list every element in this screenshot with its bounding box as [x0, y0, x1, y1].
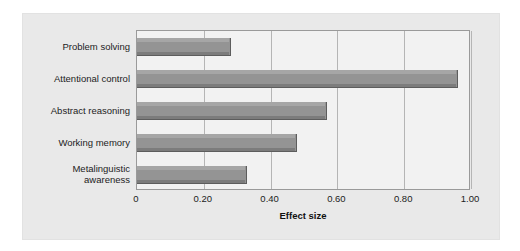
category-label: Attentional control — [24, 73, 136, 84]
bar — [137, 134, 297, 152]
gridline — [471, 31, 472, 189]
category-label-line: Problem solving — [24, 41, 130, 52]
bar-row — [137, 31, 469, 63]
category-axis-labels: Problem solvingAttentional controlAbstra… — [18, 30, 136, 190]
bar-row — [137, 127, 469, 159]
category-label: Abstract reasoning — [24, 105, 136, 116]
x-tick-label: 1.00 — [461, 193, 480, 204]
x-tick-label: 0.80 — [394, 193, 413, 204]
bar-row — [137, 63, 469, 95]
x-axis-tick-labels: 00.200.400.600.801.00 — [136, 193, 470, 207]
x-tick-label: 0.40 — [260, 193, 279, 204]
category-label-line: Attentional control — [24, 73, 130, 84]
category-label: Problem solving — [24, 41, 136, 52]
category-label-line: awareness — [24, 174, 130, 185]
x-axis-title: Effect size — [136, 210, 470, 221]
figure-container: Problem solvingAttentional controlAbstra… — [0, 0, 520, 251]
category-label: Metalinguisticawareness — [24, 163, 136, 185]
category-label-line: Abstract reasoning — [24, 105, 130, 116]
x-tick-label: 0.60 — [327, 193, 346, 204]
bar — [137, 166, 247, 184]
bar-row — [137, 159, 469, 191]
plot-area — [136, 30, 470, 190]
bar — [137, 70, 458, 88]
category-label-line: Metalinguistic — [24, 163, 130, 174]
category-label: Working memory — [24, 137, 136, 148]
bar-row — [137, 95, 469, 127]
x-tick-label: 0.20 — [194, 193, 213, 204]
bar — [137, 102, 327, 120]
bar — [137, 38, 231, 56]
category-label-line: Working memory — [24, 137, 130, 148]
x-tick-label: 0 — [133, 193, 138, 204]
